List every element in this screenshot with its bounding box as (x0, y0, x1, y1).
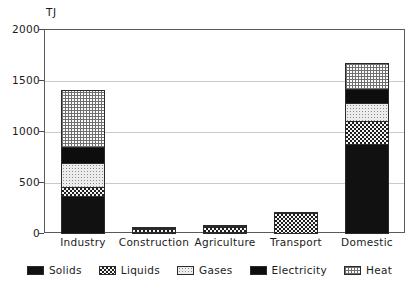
legend: Solids Liquids Gases Electricity Heat (0, 262, 419, 278)
legend-swatch-electricity-icon (250, 266, 267, 275)
segment-domestic-electricity[interactable] (345, 89, 389, 104)
legend-label-liquids: Liquids (121, 264, 160, 276)
legend-item-gases[interactable]: Gases (177, 264, 232, 276)
legend-item-solids[interactable]: Solids (27, 264, 82, 276)
y-tick-label-2000: 2000 (12, 23, 40, 35)
segment-construction-solids[interactable] (132, 232, 176, 234)
x-tick-label-domestic: Domestic (341, 236, 393, 248)
x-tick-label-transport: Transport (270, 236, 322, 248)
segment-industry-electricity[interactable] (61, 147, 105, 163)
legend-item-heat[interactable]: Heat (344, 264, 392, 276)
y-tick-label-1500: 1500 (12, 74, 40, 86)
x-tick-label-agriculture: Agriculture (194, 236, 255, 248)
y-tick-label-1000: 1000 (12, 125, 40, 137)
legend-swatch-heat-icon (344, 266, 361, 275)
legend-swatch-gases-icon (177, 266, 194, 275)
legend-label-solids: Solids (49, 264, 82, 276)
x-axis: Industry Construction Agriculture Transp… (44, 236, 405, 254)
segment-transport-liquids[interactable] (274, 213, 318, 234)
legend-label-electricity: Electricity (272, 264, 327, 276)
legend-item-liquids[interactable]: Liquids (99, 264, 160, 276)
segment-domestic-solids[interactable] (345, 144, 389, 234)
segment-domestic-heat[interactable] (345, 63, 389, 91)
segment-industry-heat[interactable] (61, 90, 105, 148)
y-tick-mark-0 (38, 233, 44, 234)
legend-label-gases: Gases (199, 264, 232, 276)
legend-label-heat: Heat (366, 264, 392, 276)
y-axis-unit-label: TJ (46, 6, 57, 18)
segment-domestic-gases[interactable] (345, 103, 389, 121)
legend-swatch-solids-icon (27, 266, 44, 275)
segment-agriculture-solids[interactable] (203, 232, 247, 234)
stacked-bar-chart: TJ 2000 1500 1000 500 0 (0, 0, 419, 293)
segment-industry-solids[interactable] (61, 196, 105, 234)
y-axis: 2000 1500 1000 500 0 (0, 0, 40, 293)
x-tick-label-industry: Industry (60, 236, 106, 248)
legend-item-electricity[interactable]: Electricity (250, 264, 327, 276)
x-tick-label-construction: Construction (119, 236, 189, 248)
segment-industry-gases[interactable] (61, 163, 105, 189)
legend-swatch-liquids-icon (99, 266, 116, 275)
y-tick-label-500: 500 (19, 176, 40, 188)
segment-domestic-liquids[interactable] (345, 121, 389, 146)
bars-layer (44, 29, 405, 233)
